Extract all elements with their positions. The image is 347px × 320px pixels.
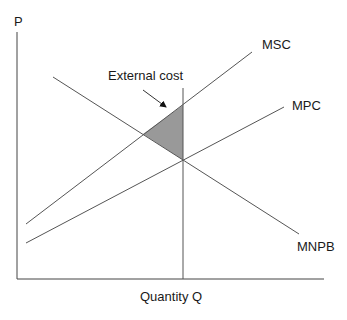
mnpb-curve: [53, 77, 299, 234]
mnpb-label: MNPB: [297, 239, 335, 254]
externality-diagram: P Quantity Q MSC MPC MNPB External cost: [0, 0, 347, 320]
external-cost-arrow: [143, 90, 166, 107]
y-axis-label: P: [14, 14, 23, 29]
mpc-label: MPC: [292, 98, 321, 113]
msc-label: MSC: [262, 37, 291, 52]
external-cost-label: External cost: [108, 68, 184, 83]
external-cost-area: [143, 105, 183, 160]
x-axis-label: Quantity Q: [140, 289, 202, 304]
